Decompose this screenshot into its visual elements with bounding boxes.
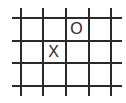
grid-line-horizontal (12, 85, 122, 87)
grid-line-vertical (110, 8, 112, 96)
game-board: O X (0, 0, 126, 103)
x-mark[interactable]: X (42, 41, 65, 63)
grid-line-horizontal (12, 62, 122, 64)
o-mark[interactable]: O (65, 18, 88, 40)
grid-line-horizontal (12, 40, 122, 42)
grid-line-vertical (88, 8, 90, 96)
grid-line-vertical (20, 8, 22, 96)
